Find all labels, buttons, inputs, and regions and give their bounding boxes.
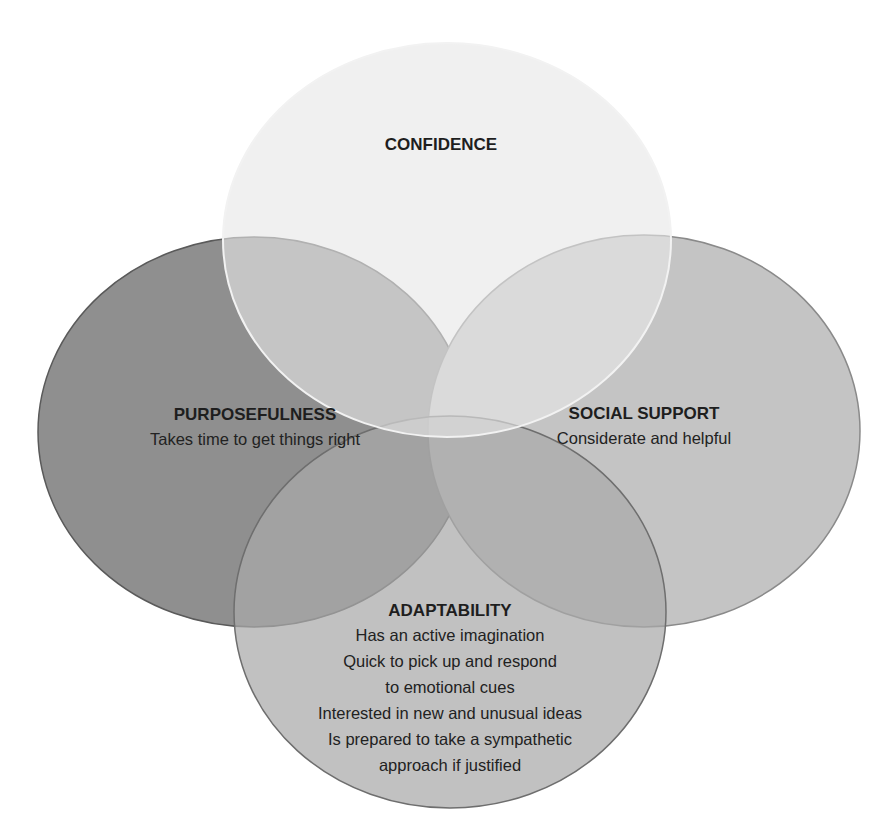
adaptability-line: to emotional cues <box>385 678 514 696</box>
adaptability-line: Interested in new and unusual ideas <box>318 704 582 722</box>
venn-diagram: CONFIDENCE PURPOSEFULNESS Takes time to … <box>0 0 891 839</box>
adaptability-title: ADAPTABILITY <box>388 601 512 620</box>
adaptability-line: approach if justified <box>379 756 521 774</box>
confidence-title: CONFIDENCE <box>385 135 497 154</box>
purposefulness-title: PURPOSEFULNESS <box>174 405 336 424</box>
purposefulness-line: Takes time to get things right <box>150 430 360 448</box>
circle-confidence <box>223 43 671 437</box>
label-confidence: CONFIDENCE <box>385 135 497 154</box>
confidence-circle <box>223 43 671 437</box>
adaptability-line: Has an active imagination <box>356 626 545 644</box>
social-support-title: SOCIAL SUPPORT <box>569 404 720 423</box>
adaptability-line: Is prepared to take a sympathetic <box>328 730 572 748</box>
social-support-line: Considerate and helpful <box>557 429 731 447</box>
adaptability-line: Quick to pick up and respond <box>343 652 557 670</box>
